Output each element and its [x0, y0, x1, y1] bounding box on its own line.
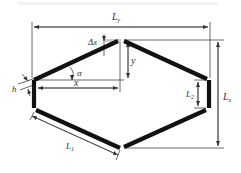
inclined-wall-bottom-right: [124, 110, 206, 147]
honeycomb-cell-diagram: Ly Lx x y Δx α h: [0, 0, 241, 173]
x-dimension: x: [36, 40, 124, 92]
faint-caption-strip: [18, 2, 218, 5]
delta-x-label: Δx: [87, 37, 97, 47]
lx-dimension: Lx: [124, 40, 232, 148]
lx-label: Lx: [222, 91, 232, 103]
l1-label: L1: [65, 141, 74, 152]
inclined-wall-top-left: [34, 41, 118, 80]
l2-dimension: L2: [185, 80, 206, 108]
l1-dimension: L1: [30, 112, 120, 160]
ly-label: Ly: [111, 11, 121, 23]
alpha-label: α: [77, 68, 82, 78]
y-label: y: [130, 55, 136, 66]
cell-walls: [34, 41, 209, 148]
x-label: x: [73, 77, 79, 88]
inclined-wall-top-right: [124, 41, 207, 79]
inclined-wall-bottom-left: [36, 110, 120, 148]
h-label: h: [12, 84, 17, 94]
l2-label: L2: [185, 89, 194, 100]
